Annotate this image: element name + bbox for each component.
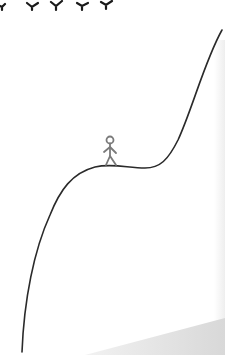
floor-shadow [85, 318, 225, 355]
birds-group [0, 1, 112, 10]
bird-icon [0, 4, 5, 10]
bird-icon [27, 3, 38, 10]
hill-curve [22, 30, 222, 352]
bird-icon [77, 3, 88, 10]
bird-icon [101, 1, 112, 9]
stick-figure-icon [104, 137, 116, 166]
bird-icon [51, 1, 62, 10]
illustration-scene [0, 0, 225, 355]
edge-shadow [214, 40, 225, 330]
illustration-canvas [0, 0, 225, 355]
